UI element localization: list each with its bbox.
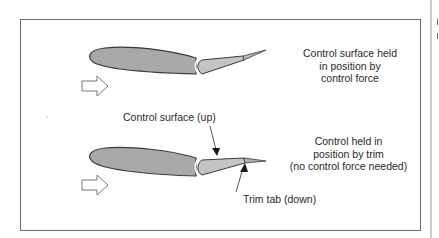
label-bottom-right-line1: Control held in — [281, 135, 416, 148]
bottom-trim-tab — [244, 158, 266, 163]
bottom-main-airfoil — [90, 147, 196, 176]
label-top-right: Control surface held in position by cont… — [285, 47, 415, 85]
top-trim-tab — [243, 50, 266, 60]
top-main-airfoil — [90, 47, 196, 74]
speck — [46, 116, 48, 118]
top-airfoil-assembly — [90, 47, 266, 75]
label-bottom-right-line3: (no control force needed) — [281, 160, 416, 173]
label-trim-tab-down: Trim tab (down) — [243, 193, 316, 206]
control-surface-leader-arrowhead-icon — [212, 148, 220, 156]
top-airflow-arrow-icon — [82, 76, 108, 96]
diagram-canvas — [0, 0, 439, 238]
label-bottom-right-line2: position by trim — [281, 148, 416, 161]
label-top-right-line1: Control surface held — [285, 47, 415, 60]
label-bottom-right: Control held in position by trim (no con… — [281, 135, 416, 173]
top-control-surface — [198, 56, 244, 74]
control-surface-leader-line — [210, 126, 216, 150]
label-control-surface-up: Control surface (up) — [123, 111, 216, 124]
label-top-right-line3: control force — [285, 72, 415, 85]
label-top-right-line2: in position by — [285, 60, 415, 73]
bottom-control-surface — [198, 158, 245, 175]
bottom-airflow-arrow-icon — [82, 175, 108, 195]
bottom-airfoil-assembly — [90, 147, 266, 177]
